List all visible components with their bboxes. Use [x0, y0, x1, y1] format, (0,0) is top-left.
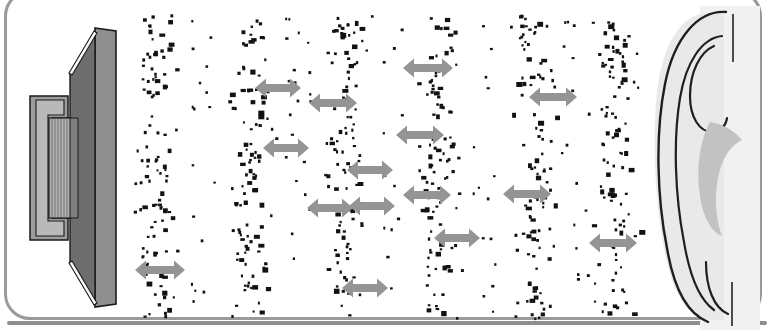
wavelength-arrow [589, 234, 637, 253]
wavelength-arrow [403, 59, 453, 78]
wavelength-arrow [396, 126, 444, 145]
wavelength-arrow [403, 186, 451, 205]
wavelength-arrow [349, 197, 395, 216]
wavelength-arrow [135, 261, 185, 280]
wavelength-arrow [503, 185, 551, 204]
wavelength-arrow [307, 199, 353, 218]
wavelength-arrow [434, 229, 480, 248]
sound-wave-diagram: Cross-section of a loudspeaker on the le… [0, 0, 773, 336]
wavelength-arrow [347, 161, 393, 180]
wavelength-arrow [263, 139, 309, 158]
wavelength-arrow [342, 279, 388, 298]
wavelength-arrow [529, 88, 577, 107]
wavelength-arrow [309, 94, 357, 113]
wavelength-arrow [255, 79, 301, 98]
wavelength-arrows [0, 0, 773, 336]
